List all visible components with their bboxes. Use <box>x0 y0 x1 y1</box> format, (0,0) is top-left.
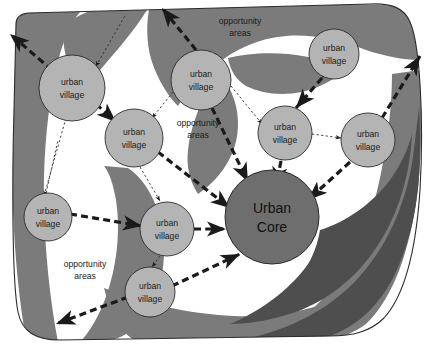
uv-far-right-circle[interactable] <box>341 113 395 167</box>
node-uv-upper-mid[interactable]: urban village <box>171 50 231 110</box>
uv-left-mid-circle[interactable] <box>105 109 163 167</box>
node-uv-right-mid[interactable]: urban village <box>258 106 312 160</box>
node-uv-bottom[interactable]: urban village <box>125 267 175 317</box>
urban-core-circle[interactable] <box>225 170 319 264</box>
uv-bottom-circle[interactable] <box>125 267 175 317</box>
node-uv-top-left[interactable]: urban village <box>39 55 105 121</box>
node-uv-left-mid[interactable]: urban village <box>105 109 163 167</box>
diagram-canvas: Urban Core urban village urban village u… <box>0 0 433 346</box>
node-urban-core[interactable]: Urban Core <box>225 170 319 264</box>
node-uv-far-right[interactable]: urban village <box>341 113 395 167</box>
map-region <box>0 0 433 346</box>
uv-top-right-circle[interactable] <box>309 29 359 79</box>
uv-upper-mid-circle[interactable] <box>171 50 231 110</box>
urban-village-diagram: Urban Core urban village urban village u… <box>0 0 433 346</box>
uv-lower-left-circle[interactable] <box>24 193 72 241</box>
node-uv-lower-left[interactable]: urban village <box>24 193 72 241</box>
uv-lower-mid-circle[interactable] <box>140 202 194 256</box>
uv-top-left-circle[interactable] <box>39 55 105 121</box>
uv-right-mid-circle[interactable] <box>258 106 312 160</box>
node-uv-top-right[interactable]: urban village <box>309 29 359 79</box>
node-uv-lower-mid[interactable]: urban village <box>140 202 194 256</box>
